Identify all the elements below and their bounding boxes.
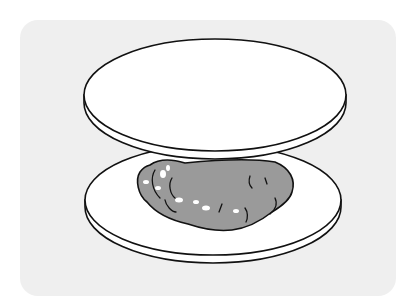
illustration: Two round discs with a lumpy gray fillin…: [0, 0, 400, 300]
top-disc: [84, 39, 346, 159]
sandwich-discs-drawing: [0, 0, 400, 300]
